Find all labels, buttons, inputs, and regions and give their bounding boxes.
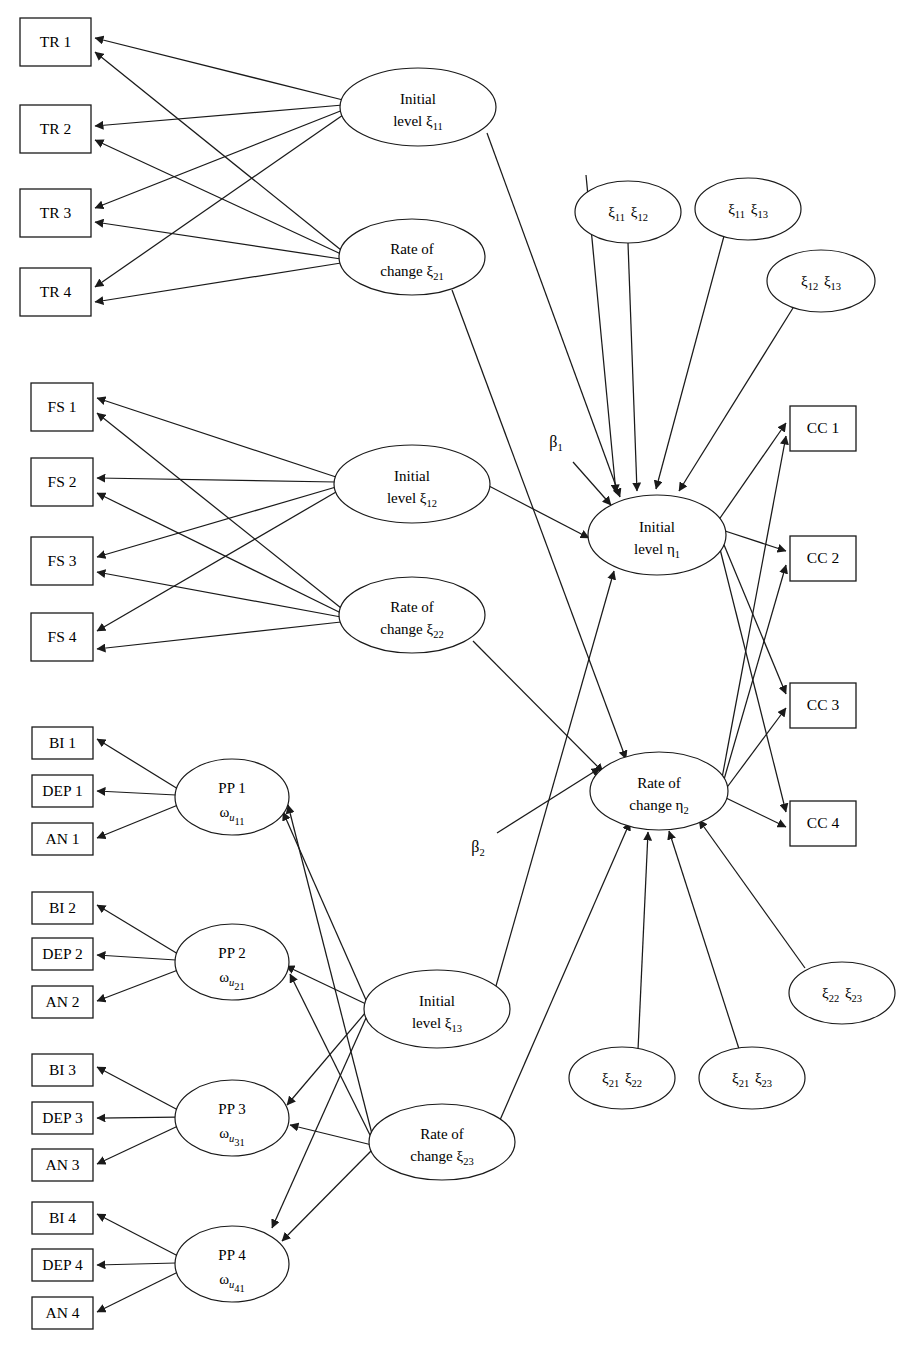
indicator-tr4: TR 4: [20, 268, 91, 316]
latent-ellipse: [364, 970, 510, 1048]
path-label-beta2: β2: [471, 838, 484, 858]
latent-ellipse: [590, 752, 728, 830]
correlation-c_xi21_xi23: ξ21 ξ23: [699, 1047, 805, 1109]
latent-ellipse: [339, 219, 485, 295]
indicator-an2: AN 2: [32, 986, 93, 1018]
latent-eta1: Initiallevel η1: [588, 495, 726, 575]
latent-ellipse: [339, 577, 485, 653]
edge-xi11-tr4: [95, 115, 343, 287]
indicator-fs4: FS 4: [31, 613, 93, 661]
indicator-label: AN 1: [45, 830, 79, 847]
indicator-tr3: TR 3: [20, 189, 91, 237]
edge-eta1-cc1: [718, 423, 786, 521]
indicator-bi1: BI 1: [32, 727, 93, 759]
indicator-dep1: DEP 1: [32, 775, 93, 807]
latent-label-line1: Initial: [394, 468, 430, 484]
edge-pp2-bi2: [97, 905, 178, 954]
correlation-c_xi11_xi13: ξ11 ξ13: [695, 178, 801, 240]
indicator-label: FS 1: [48, 398, 77, 415]
latent-xi13: Initiallevel ξ13: [364, 970, 510, 1048]
edge-xi12-fs4: [97, 492, 336, 631]
latent-ellipse: [175, 924, 289, 1000]
edge-xi21-tr3: [95, 222, 341, 259]
latent-ellipse: [588, 495, 726, 575]
edge-c2123-eta2: [669, 831, 740, 1052]
indicator-cc3: CC 3: [790, 683, 856, 728]
indicator-dep3: DEP 3: [32, 1102, 93, 1134]
latent-label-line1: Rate of: [637, 775, 681, 791]
indicator-an4: AN 4: [32, 1297, 93, 1329]
latent-ellipse: [340, 68, 496, 146]
latent-ellipse: [175, 1080, 289, 1156]
indicator-label: CC 1: [807, 419, 839, 436]
indicator-label: BI 4: [49, 1209, 76, 1226]
indicator-label: TR 4: [40, 283, 72, 300]
edge-c2122-eta2: [638, 832, 648, 1050]
latent-eta2: Rate ofchange η2: [590, 752, 728, 830]
indicator-label: AN 2: [45, 993, 79, 1010]
edge-xi12-fs3: [97, 487, 336, 557]
edge-xi11-tr2: [95, 105, 343, 126]
indicator-label: BI 2: [49, 899, 76, 916]
edge-pp4-bi4: [97, 1214, 178, 1256]
edge-eta1-cc2: [722, 530, 786, 551]
edge-xi22-eta2: [473, 641, 603, 772]
edge-xi21-tr4: [95, 263, 341, 302]
edge-xi23-pp1: [288, 805, 372, 1134]
edge-pp4-dep4: [97, 1263, 176, 1265]
edge-pp1-an1: [97, 805, 178, 838]
correlation-c_xi22_xi23: ξ22 ξ23: [789, 962, 895, 1024]
indicator-an3: AN 3: [32, 1149, 93, 1181]
edge-xi12-fs1: [97, 398, 336, 477]
indicator-tr2: TR 2: [20, 105, 91, 153]
latent-label-line1: Rate of: [390, 599, 434, 615]
edge-c1112-eta1: [628, 243, 637, 491]
edge-xi11-tr3: [95, 110, 343, 208]
edge-xi23-pp3: [290, 1125, 372, 1145]
edge-pp2-dep2: [97, 955, 176, 960]
edge-c1213-eta1: [679, 308, 793, 491]
edge-pp1-dep1: [97, 791, 176, 795]
diagram-canvas: TR 1TR 2TR 3TR 4FS 1FS 2FS 3FS 4CC 1CC 2…: [0, 0, 911, 1363]
sem-path-diagram: TR 1TR 2TR 3TR 4FS 1FS 2FS 3FS 4CC 1CC 2…: [0, 0, 911, 1363]
edge-xi23-pp2: [290, 974, 372, 1139]
edge-beta1: [573, 462, 611, 505]
indicator-cc4: CC 4: [790, 801, 856, 846]
latent-xi11: Initiallevel ξ11: [340, 68, 496, 146]
indicator-bi4: BI 4: [32, 1202, 93, 1234]
indicator-fs3: FS 3: [31, 537, 93, 585]
latent-pp1: PP 1ωu11: [175, 759, 289, 835]
indicator-cc1: CC 1: [790, 406, 856, 451]
edge-xi22-fs4: [97, 622, 341, 649]
edge-c2223-eta2: [699, 820, 805, 968]
indicator-label: DEP 2: [42, 945, 82, 962]
latent-pp2: PP 2ωu21: [175, 924, 289, 1000]
edge-eta2-cc1: [722, 436, 786, 778]
indicator-label: FS 4: [48, 628, 77, 645]
pp-label: PP 2: [218, 945, 245, 961]
edge-xi11-tr1: [95, 38, 343, 100]
indicator-label: CC 2: [807, 549, 839, 566]
latent-label-line1: Rate of: [420, 1126, 464, 1142]
indicator-label: FS 3: [48, 552, 77, 569]
latent-xi23: Rate ofchange ξ23: [369, 1104, 515, 1180]
correlation-c_xi21_xi22: ξ21 ξ22: [569, 1047, 675, 1109]
indicator-dep2: DEP 2: [32, 938, 93, 970]
edge-pp1-bi1: [97, 739, 178, 789]
latent-pp3: PP 3ωu31: [175, 1080, 289, 1156]
latent-label-line1: Rate of: [390, 241, 434, 257]
edge-xi21-tr1: [95, 52, 341, 250]
indicator-label: AN 3: [45, 1156, 79, 1173]
edge-pp4-an4: [97, 1272, 178, 1312]
indicator-label: AN 4: [45, 1304, 79, 1321]
indicator-label: DEP 1: [42, 782, 82, 799]
indicator-label: BI 3: [49, 1061, 76, 1078]
edge-eta1-cc3: [722, 540, 786, 694]
indicator-cc2: CC 2: [790, 536, 856, 581]
indicator-label: TR 3: [40, 204, 72, 221]
pp-label: PP 4: [218, 1247, 246, 1263]
indicator-fs1: FS 1: [31, 383, 93, 431]
edge-c1113-eta1: [656, 236, 724, 489]
indicator-an1: AN 1: [32, 823, 93, 855]
indicator-label: DEP 4: [42, 1256, 83, 1273]
